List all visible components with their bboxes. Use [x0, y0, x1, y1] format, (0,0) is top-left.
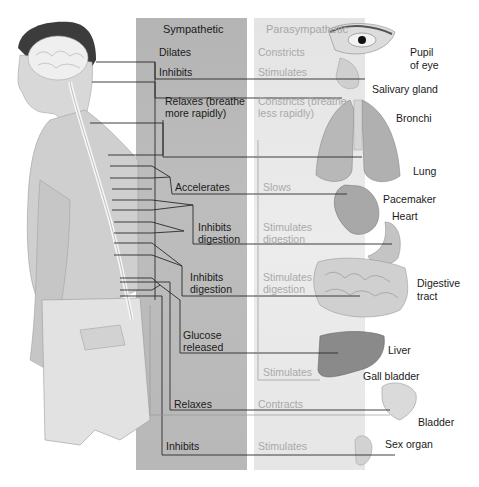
- organ-label-liver: Liver: [388, 344, 411, 357]
- organ-label-heart: Heart: [392, 210, 418, 223]
- organ-label-bladder: Bladder: [418, 416, 454, 429]
- sympathetic-effect-heart: Accelerates: [175, 181, 230, 193]
- organ-label-bronchi: Bronchi: [396, 112, 432, 125]
- parasympathetic-effect-gall-bladder: Stimulates: [263, 366, 312, 378]
- sympathetic-effect-bronchi: Relaxes (breathe more rapidly): [165, 95, 245, 119]
- organ-label-pacemaker: Pacemaker: [383, 193, 436, 206]
- sympathetic-effect-pupil: Dilates: [159, 46, 191, 58]
- parasympathetic-effect-stomach: Stimulates digestion: [263, 221, 312, 245]
- organ-label-lung: Lung: [413, 165, 436, 178]
- sympathetic-effect-intestine: Inhibits digestion: [190, 271, 232, 295]
- sympathetic-effect-bladder: Relaxes: [174, 398, 212, 410]
- parasympathetic-effect-sex-organ: Stimulates: [258, 440, 307, 452]
- organ-label-sex-organ: Sex organ: [385, 438, 433, 451]
- sympathetic-effect-stomach: Inhibits digestion: [198, 221, 240, 245]
- sympathetic-effect-liver: Glucose released: [183, 329, 223, 353]
- organ-label-salivary-gland: Salivary gland: [372, 83, 438, 96]
- parasympathetic-effect-pupil: Constricts: [258, 46, 305, 58]
- parasympathetic-effect-salivary: Stimulates: [258, 66, 307, 78]
- parasympathetic-effect-bronchi: Constricts (breathe less rapidly): [258, 95, 347, 119]
- sympathetic-header: Sympathetic: [163, 23, 224, 35]
- parasympathetic-effect-bladder: Contracts: [258, 398, 303, 410]
- organ-label-gall-bladder: Gall bladder: [363, 370, 420, 383]
- parasympathetic-effect-intestine: Stimulates digestion: [263, 271, 312, 295]
- parasympathetic-header: Parasympathetic: [266, 23, 348, 35]
- organ-label-digestive-tract: Digestive tract: [417, 277, 460, 303]
- parasympathetic-effect-heart: Slows: [263, 181, 291, 193]
- sympathetic-effect-salivary: Inhibits: [159, 66, 192, 78]
- organ-label-pupil: Pupil of eye: [410, 46, 439, 72]
- sympathetic-effect-sex-organ: Inhibits: [166, 440, 199, 452]
